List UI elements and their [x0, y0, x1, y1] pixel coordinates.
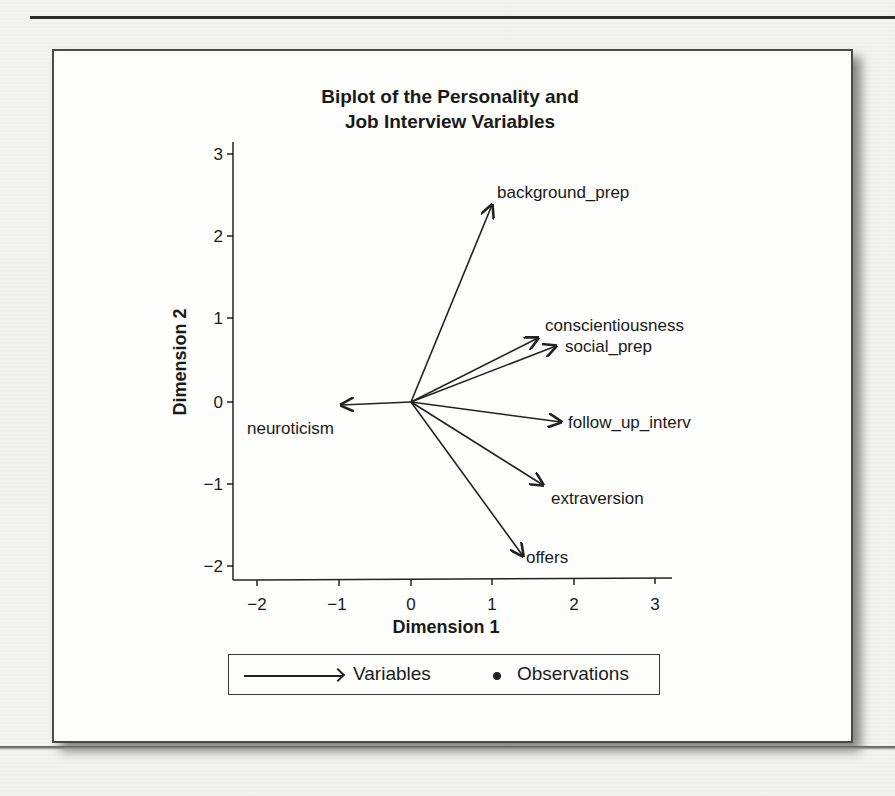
arrow-extraversion	[411, 402, 543, 485]
x-tick-label: −1	[327, 595, 346, 614]
label-offers: offers	[526, 548, 568, 567]
y-tick-label: 1	[214, 309, 223, 328]
y-tick-label: −1	[204, 475, 223, 494]
y-tick-label: 2	[214, 227, 223, 246]
y-tick-label: 0	[214, 393, 223, 412]
arrow-social-prep	[411, 346, 556, 402]
legend-variables-label: Variables	[353, 663, 431, 685]
label-conscientiousness: conscientiousness	[545, 316, 684, 335]
chart-legend: Variables Observations	[228, 654, 660, 695]
chart-title-line-1: Biplot of the Personality and	[321, 86, 579, 107]
arrow-follow-up-interv	[411, 402, 561, 422]
label-follow-up-interv: follow_up_interv	[568, 413, 691, 432]
legend-arrow-icon	[244, 675, 342, 677]
x-tick-label: −2	[247, 595, 266, 614]
chart-title-line-2: Job Interview Variables	[345, 111, 555, 132]
label-background-prep: background_prep	[497, 183, 629, 202]
x-tick-label: 1	[487, 595, 496, 614]
label-extraversion: extraversion	[551, 489, 644, 508]
y-tick-label: −2	[204, 557, 223, 576]
x-tick-label: 2	[569, 595, 578, 614]
x-tick-label: 3	[650, 595, 659, 614]
x-tick-label: 0	[406, 595, 415, 614]
bottom-rule	[0, 746, 895, 750]
arrow-background-prep	[411, 205, 492, 402]
y-axis: 3 2 1 0 −1 −2	[204, 142, 233, 580]
arrow-offers	[411, 402, 523, 556]
legend-observations-label: Observations	[517, 663, 629, 685]
y-tick-label: 3	[214, 145, 223, 164]
label-social-prep: social_prep	[565, 337, 652, 356]
variable-arrows	[341, 205, 561, 556]
label-neuroticism: neuroticism	[247, 419, 334, 438]
y-axis-label: Dimension 2	[170, 308, 190, 415]
arrow-neuroticism	[341, 402, 411, 405]
x-axis-label: Dimension 1	[392, 617, 499, 637]
x-axis: −2 −1 0 1 2 3	[233, 578, 672, 614]
legend-dot-icon	[493, 672, 501, 680]
arrow-conscientiousness	[411, 338, 538, 402]
variable-labels: background_prep conscientiousness social…	[247, 183, 691, 567]
